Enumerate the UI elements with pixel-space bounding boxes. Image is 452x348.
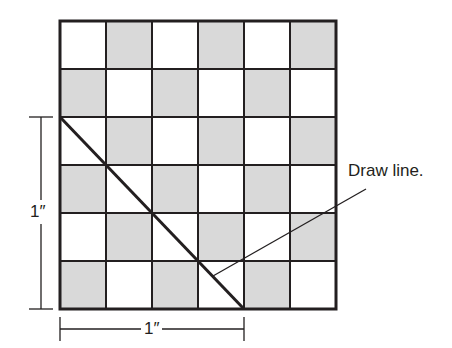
grid-cell — [290, 69, 336, 117]
grid-cell — [106, 21, 152, 69]
grid-cell — [60, 213, 106, 261]
grid-cell — [106, 213, 152, 261]
grid-cell — [152, 117, 198, 165]
grid-cell — [152, 21, 198, 69]
grid-cell — [198, 117, 244, 165]
grid-cell — [290, 165, 336, 213]
grid-cell — [290, 117, 336, 165]
grid-cell — [60, 261, 106, 309]
grid-cell — [244, 21, 290, 69]
grid-cell — [290, 261, 336, 309]
grid-cell — [152, 69, 198, 117]
grid-cell — [244, 69, 290, 117]
grid-cell — [290, 213, 336, 261]
grid-cell — [244, 117, 290, 165]
grid-cell — [106, 117, 152, 165]
vertical-dimension-label: 1″ — [30, 200, 45, 224]
grid-cell — [106, 261, 152, 309]
grid-cell — [198, 213, 244, 261]
grid-cell — [106, 69, 152, 117]
draw-line-label: Draw line. — [348, 161, 424, 181]
grid-cell — [60, 69, 106, 117]
grid-cell — [198, 21, 244, 69]
grid-cell — [152, 165, 198, 213]
grid-cell — [244, 261, 290, 309]
grid-cell — [198, 69, 244, 117]
grid-cell — [198, 165, 244, 213]
grid-cell — [152, 261, 198, 309]
grid-cell — [290, 21, 336, 69]
grid-cell — [60, 21, 106, 69]
grid-cell — [244, 165, 290, 213]
horizontal-dimension-label: 1″ — [141, 319, 162, 339]
grid-cell — [60, 165, 106, 213]
